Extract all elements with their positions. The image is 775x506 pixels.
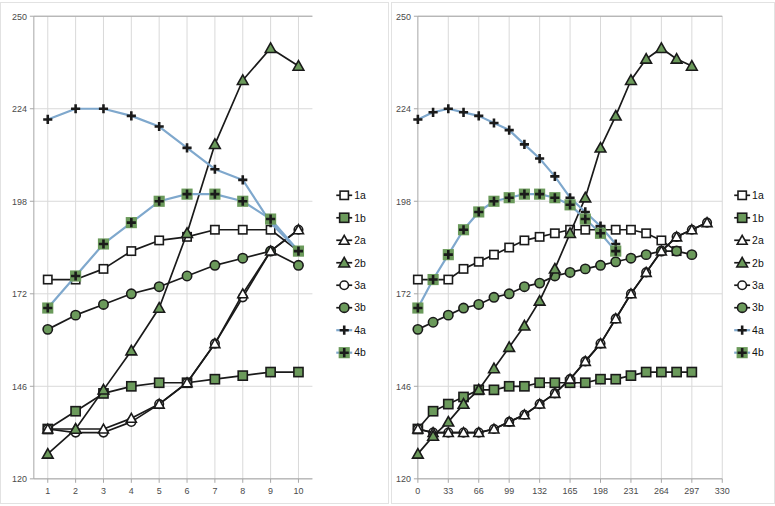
data-point-1a	[211, 226, 219, 234]
legend-marker-1a	[738, 191, 746, 199]
legend-label-4a: 4a	[752, 325, 764, 336]
data-point-4a	[71, 104, 80, 113]
series-3a	[43, 225, 302, 436]
legend-item-4b[interactable]: 4b	[734, 347, 764, 358]
data-point-1b	[429, 407, 438, 416]
legend-label-2a: 2a	[752, 235, 764, 246]
data-point-1a	[44, 275, 52, 283]
y-tick-label: 146	[396, 382, 411, 392]
chart-panel-left: 120146172198224250123456789101a1b2a2b3a3…	[0, 2, 389, 504]
legend-item-1b[interactable]: 1b	[734, 213, 764, 224]
legend-item-3a[interactable]: 3a	[336, 280, 366, 291]
data-point-1b	[550, 378, 559, 387]
data-point-1a	[444, 275, 452, 283]
legend-label-1b: 1b	[752, 213, 764, 224]
legend-item-2b[interactable]: 2b	[734, 257, 764, 268]
data-point-1b	[489, 385, 498, 394]
data-point-1a	[581, 226, 589, 234]
data-point-2b	[519, 320, 530, 330]
series-line-1b	[48, 372, 299, 429]
legend-item-3a[interactable]: 3a	[734, 280, 764, 291]
x-tick-label: 330	[715, 486, 730, 496]
legend-item-2a[interactable]: 2a	[336, 235, 366, 246]
data-point-1b	[444, 400, 453, 409]
data-point-1a	[99, 265, 107, 273]
data-point-4b	[504, 192, 515, 203]
data-point-1a	[127, 247, 135, 255]
legend-marker-3a	[340, 281, 349, 290]
legend-marker-4b	[737, 347, 748, 358]
x-tick-label: 99	[504, 486, 514, 496]
legend-item-2b[interactable]: 2b	[336, 257, 366, 268]
legend-item-1a[interactable]: 1a	[336, 190, 366, 201]
legend-item-3b[interactable]: 3b	[336, 302, 366, 313]
data-point-1b	[535, 378, 544, 387]
data-point-3b	[294, 261, 303, 270]
series-4b	[42, 189, 304, 314]
chart-panel-right: 1201461721982242500336699132165198231264…	[391, 2, 775, 504]
data-point-3b	[474, 300, 483, 309]
y-tick-label: 250	[396, 12, 411, 22]
data-point-2b	[595, 143, 606, 153]
data-point-3b	[99, 300, 108, 309]
data-point-3b	[505, 289, 514, 298]
legend-label-3b: 3b	[354, 302, 366, 313]
legend-item-4a[interactable]: 4a	[734, 325, 764, 336]
data-point-2b	[610, 110, 621, 120]
line-chart-right: 1201461721982242500336699132165198231264…	[392, 3, 774, 503]
data-point-3b	[459, 303, 468, 312]
data-point-3b	[238, 254, 247, 263]
data-point-1a	[551, 229, 559, 237]
data-point-1a	[505, 243, 513, 251]
x-tick-label: 198	[593, 486, 608, 496]
data-point-2b	[210, 139, 221, 149]
legend-item-1b[interactable]: 1b	[336, 213, 366, 224]
data-point-4b	[154, 196, 165, 207]
legend-item-4a[interactable]: 4a	[336, 325, 366, 336]
y-tick-label: 250	[12, 12, 27, 22]
data-point-4b	[98, 238, 109, 249]
y-tick-label: 146	[12, 382, 27, 392]
legend-label-1a: 1a	[752, 190, 764, 201]
data-point-4a	[127, 111, 136, 120]
data-point-3b	[535, 278, 544, 287]
series-line-3b	[48, 251, 299, 329]
data-point-1b	[71, 407, 80, 416]
data-point-1b	[657, 367, 666, 376]
data-point-1a	[627, 226, 635, 234]
data-point-2b	[656, 43, 667, 53]
data-point-2b	[686, 61, 697, 71]
legend-label-4a: 4a	[354, 325, 366, 336]
data-point-4b	[265, 213, 276, 224]
data-point-4a	[444, 104, 453, 113]
legend-item-3b[interactable]: 3b	[734, 302, 764, 313]
data-point-3b	[611, 257, 620, 266]
data-point-1b	[581, 378, 590, 387]
data-point-1b	[210, 375, 219, 384]
data-point-4b	[237, 196, 248, 207]
data-point-1b	[155, 378, 164, 387]
legend-item-4b[interactable]: 4b	[336, 347, 366, 358]
x-tick-label: 231	[623, 486, 638, 496]
series-line-4b	[48, 194, 299, 308]
legend-item-1a[interactable]: 1a	[734, 190, 764, 201]
x-tick-label: 4	[129, 486, 134, 496]
series-1b	[43, 368, 303, 434]
x-tick-label: 297	[684, 486, 699, 496]
data-point-4b	[181, 189, 192, 200]
series-4a	[43, 104, 303, 255]
data-point-4b	[443, 249, 454, 260]
data-point-2b	[265, 43, 276, 53]
x-tick-label: 2	[73, 486, 78, 496]
data-point-4b	[595, 228, 606, 239]
data-point-4a	[413, 115, 422, 124]
data-point-3b	[489, 293, 498, 302]
legend-marker-3b	[340, 303, 349, 312]
data-point-1a	[642, 229, 650, 237]
data-point-4a	[489, 118, 498, 127]
data-point-1a	[535, 233, 543, 241]
data-point-4b	[42, 302, 53, 313]
legend-label-4b: 4b	[354, 347, 366, 358]
x-tick-label: 9	[268, 486, 273, 496]
legend-item-2a[interactable]: 2a	[734, 235, 764, 246]
